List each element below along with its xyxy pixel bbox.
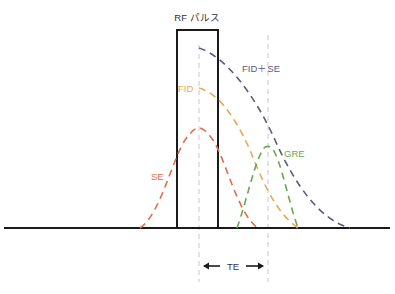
gre-label: GRE xyxy=(284,148,305,159)
fid-se-label: FID＋SE xyxy=(242,63,280,74)
te-label: TE xyxy=(227,261,239,272)
fid-label: FID xyxy=(178,83,193,94)
rf-pulse xyxy=(177,30,218,228)
te-arrowhead-left-icon xyxy=(203,263,209,270)
rf-pulse-label: RF パルス xyxy=(174,12,219,23)
fid-se-curve xyxy=(199,48,350,228)
se-label: SE xyxy=(151,171,164,182)
te-arrowhead-right-icon xyxy=(258,263,264,270)
te-interval: TE xyxy=(203,261,264,272)
mri-signal-diagram: RF パルス FID＋SE FID SE GRE TE xyxy=(0,0,395,294)
